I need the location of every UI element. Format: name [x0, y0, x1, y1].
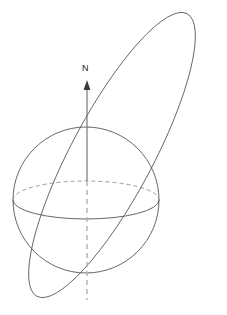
north-pole-label: N [82, 64, 89, 73]
sphere-outline [13, 127, 159, 273]
equator-front-arc [13, 200, 159, 219]
diagram-canvas [0, 0, 227, 315]
north-arrow-icon [84, 80, 91, 90]
equator-back-arc [13, 181, 159, 200]
orbit-ellipse [1, 0, 224, 315]
orbit-diagram-figure: N [0, 0, 227, 315]
